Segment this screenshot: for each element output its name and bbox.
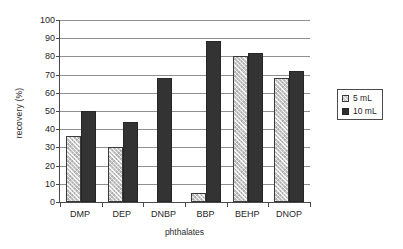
bar-dnbp-10ml [157,78,172,202]
bar-dnop-5ml [274,78,289,202]
bar-group [185,20,227,202]
x-tick-mark [102,202,103,207]
y-tick-label: 20 [45,161,55,171]
bar-group [143,20,185,202]
y-tick-label: 60 [45,88,55,98]
x-axis-labels: DMPDEPDNBPBBPBEHPDNOP [59,209,310,219]
bar-group [227,20,269,202]
y-tick-label: 0 [50,197,55,207]
legend-swatch-icon [342,95,349,102]
x-tick-mark [60,202,61,207]
y-tick-label: 30 [45,142,55,152]
bar-group [268,20,310,202]
y-tick-label: 70 [45,70,55,80]
y-tick-label: 80 [45,51,55,61]
bar-dep-5ml [108,147,123,202]
x-tick-label: DMP [59,209,101,219]
bar-bbp-10ml [206,41,221,202]
y-tick-label: 100 [40,15,55,25]
x-tick-mark [143,202,144,207]
bar-chart-figure: recovery (%) 0102030405060708090100 DMPD… [0,0,403,249]
bar-dep-10ml [123,122,138,202]
legend-item-10ml: 10 mL [342,106,377,116]
chart-legend: 5 mL10 mL [337,89,383,120]
y-tick-label: 90 [45,33,55,43]
x-tick-mark [268,202,269,207]
x-tick-label: BBP [184,209,226,219]
bar-groups [60,20,310,202]
y-tick-label: 10 [45,179,55,189]
x-tick-label: DEP [101,209,143,219]
x-tick-mark [227,202,228,207]
legend-swatch-icon [342,108,349,115]
bar-group [102,20,144,202]
y-tick-label: 40 [45,124,55,134]
x-tick-label: DNBP [143,209,185,219]
bar-behp-5ml [233,56,248,203]
y-axis-title: recovery (%) [14,58,24,168]
plot-area: 0102030405060708090100 [59,20,310,203]
x-axis-title: phthalates [59,227,310,237]
y-tick-label: 50 [45,106,55,116]
x-tick-label: BEHP [226,209,268,219]
bar-behp-10ml [248,53,263,202]
bar-group [60,20,102,202]
legend-label: 10 mL [353,106,377,116]
bar-dmp-5ml [66,136,81,202]
x-tick-mark [310,202,311,207]
x-tick-mark [185,202,186,207]
legend-label: 5 mL [353,93,372,103]
legend-item-5ml: 5 mL [342,93,377,103]
bar-bbp-5ml [191,193,206,202]
bar-dnop-10ml [289,71,304,202]
x-tick-label: DNOP [268,209,310,219]
bar-dmp-10ml [81,111,96,202]
